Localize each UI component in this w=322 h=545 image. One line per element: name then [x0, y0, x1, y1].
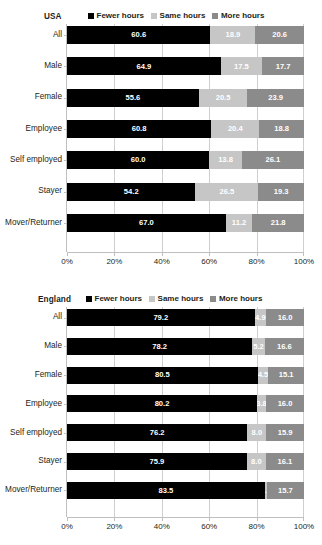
bar-row: Mover/Returner67.011.221.8 — [67, 214, 304, 232]
x-axis-ticklabels-england: 0% 20% 40% 60% 80% 100% — [67, 523, 304, 535]
bar-row: Male64.917.517.7 — [67, 57, 304, 75]
bar-segment: 78.2 — [67, 338, 252, 355]
bar-value-label: 8.0 — [251, 458, 262, 466]
bar-value-label: 16.0 — [278, 400, 293, 408]
bar-segment: 15.7 — [267, 482, 304, 499]
legend-usa: Fewer hours Same hours More hours — [88, 12, 264, 20]
bar-value-label: 18.8 — [274, 125, 289, 133]
bar-row: Stayer75.98.016.1 — [67, 453, 304, 470]
bar-segment: 76.2 — [67, 424, 247, 441]
category-label: Self employed — [10, 156, 62, 164]
chart-title-england: England — [38, 295, 71, 304]
bar-segment: 16.1 — [266, 453, 304, 470]
bar-row: Employee80.23.816.0 — [67, 395, 304, 412]
bar-segment: 18.8 — [259, 120, 304, 138]
bar-value-label: 55.6 — [125, 94, 140, 102]
category-label: All — [53, 31, 62, 39]
bar-value-label: 76.2 — [150, 429, 165, 437]
bar-value-label: 26.1 — [265, 156, 280, 164]
bar-value-label: 23.9 — [268, 94, 283, 102]
bar-segment: 20.5 — [199, 89, 248, 107]
x-ticklabel: 60% — [201, 258, 217, 266]
bar-value-label: 21.8 — [271, 219, 286, 227]
bar-stack: 83.50.815.7 — [67, 482, 304, 499]
bar-row: Mover/Returner83.50.815.7 — [67, 482, 304, 499]
bar-value-label: 78.2 — [152, 343, 167, 351]
bar-value-label: 20.5 — [216, 94, 231, 102]
bar-row: All79.24.916.0 — [67, 309, 304, 326]
bar-stack: 67.011.221.8 — [67, 214, 304, 232]
chart-page: USA Fewer hours Same hours More hours — [0, 0, 322, 545]
bar-segment: 80.2 — [67, 395, 257, 412]
bar-value-label: 4.5 — [258, 371, 269, 379]
chart-panel-usa: USA Fewer hours Same hours More hours — [0, 0, 322, 282]
bar-value-label: 3.8 — [257, 400, 266, 408]
panel-header-england: England Fewer hours Same hours More hour… — [0, 291, 322, 307]
legend-swatch-fewer-hours — [86, 296, 92, 302]
bar-value-label: 4.9 — [255, 314, 266, 322]
bar-stack: 60.618.920.6 — [67, 26, 304, 44]
bar-stack: 80.54.515.1 — [67, 367, 304, 384]
bar-segment: 83.5 — [67, 482, 265, 499]
bar-value-label: 17.5 — [234, 63, 249, 71]
legend-swatch-same-hours — [149, 296, 155, 302]
bar-segment: 8.0 — [247, 424, 266, 441]
bar-segment: 20.6 — [255, 26, 304, 44]
bar-value-label: 60.8 — [132, 125, 147, 133]
bar-stack: 64.917.517.7 — [67, 57, 304, 75]
x-ticklabel: 20% — [106, 523, 122, 531]
bar-segment: 80.5 — [67, 367, 258, 384]
legend-england: Fewer hours Same hours More hours — [86, 295, 262, 303]
legend-item-more-hours: More hours — [210, 295, 262, 303]
x-axis-ticklabels-usa: 0% 20% 40% 60% 80% 100% — [67, 258, 304, 270]
chart-title-usa: USA — [44, 12, 62, 21]
x-ticklabel: 0% — [61, 258, 73, 266]
bar-value-label: 17.7 — [276, 63, 291, 71]
bar-segment: 21.8 — [252, 214, 304, 232]
bar-value-label: 83.5 — [159, 487, 174, 495]
bar-segment: 17.5 — [221, 57, 262, 75]
bar-segment: 16.0 — [266, 309, 304, 326]
x-ticklabel: 80% — [249, 523, 265, 531]
category-label: Mover/Returner — [5, 219, 62, 227]
category-label: Employee — [26, 125, 62, 133]
bar-row: Employee60.820.418.8 — [67, 120, 304, 138]
bar-segment: 4.9 — [255, 309, 267, 326]
legend-item-fewer-hours: Fewer hours — [86, 295, 142, 303]
legend-swatch-fewer-hours — [88, 13, 94, 19]
legend-swatch-more-hours — [210, 296, 216, 302]
legend-item-fewer-hours: Fewer hours — [88, 12, 144, 20]
bar-stack: 75.98.016.1 — [67, 453, 304, 470]
bar-value-label: 75.9 — [150, 458, 165, 466]
bar-value-label: 26.5 — [219, 188, 234, 196]
bar-segment: 60.0 — [67, 151, 209, 169]
bar-row: Male78.25.216.6 — [67, 338, 304, 355]
panel-header-usa: USA Fewer hours Same hours More hours — [0, 8, 322, 24]
bar-segment: 15.1 — [268, 367, 304, 384]
plot-area-england: All79.24.916.0Male78.25.216.6Female80.54… — [66, 307, 304, 517]
bar-segment: 16.6 — [265, 338, 304, 355]
legend-swatch-more-hours — [212, 13, 218, 19]
bar-segment: 18.9 — [210, 26, 255, 44]
bar-value-label: 79.2 — [153, 314, 168, 322]
bar-stack: 76.28.015.9 — [67, 424, 304, 441]
bar-segment: 20.4 — [211, 120, 259, 138]
bar-value-label: 20.6 — [272, 31, 287, 39]
category-label: Male — [44, 62, 62, 70]
bar-segment: 54.2 — [67, 183, 195, 201]
legend-label-fewer-hours: Fewer hours — [97, 12, 145, 20]
bar-row: Female55.620.523.9 — [67, 89, 304, 107]
legend-item-same-hours: Same hours — [151, 12, 205, 20]
x-axis-ticks-usa — [67, 253, 304, 256]
bar-value-label: 80.5 — [155, 371, 170, 379]
bar-segment: 8.0 — [247, 453, 266, 470]
legend-label-fewer-hours: Fewer hours — [95, 295, 143, 303]
category-label: All — [53, 313, 62, 321]
category-label: Employee — [26, 400, 62, 408]
bar-stack: 80.23.816.0 — [67, 395, 304, 412]
bar-value-label: 11.2 — [232, 219, 246, 227]
legend-label-more-hours: More hours — [221, 12, 265, 20]
x-ticklabel: 80% — [249, 258, 265, 266]
category-label: Stayer — [38, 187, 62, 195]
bar-segment: 75.9 — [67, 453, 247, 470]
